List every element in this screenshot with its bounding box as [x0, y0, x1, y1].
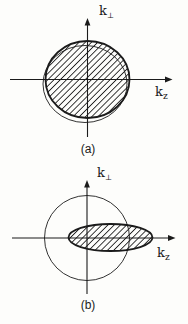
figure-a-y-axis-arrow-icon	[85, 18, 91, 26]
figure-b-y-axis-label: k⊥	[97, 166, 112, 182]
figure-b-plot	[12, 180, 176, 294]
figure-b-caption: (b)	[58, 299, 118, 311]
figure-b-x-axis-label-subscript: z	[165, 252, 170, 262]
figure-b-hatched-ellipse	[69, 224, 153, 251]
figure-a-caption: (a)	[58, 143, 118, 155]
figure-b-y-axis-label-subscript: ⊥	[105, 173, 112, 182]
figure-b-y-axis-label-base: k	[97, 165, 105, 180]
figure-a-plot	[10, 18, 173, 137]
wavevector-diagram-svg	[0, 0, 188, 324]
figure-a-y-axis-label-base: k	[99, 3, 107, 18]
figure-a-x-axis-label-base: k	[155, 84, 163, 99]
figure-a-y-axis-label: k⊥	[99, 4, 114, 20]
figure-a-x-axis-label: kz	[155, 85, 168, 101]
figure-b-x-axis-arrow-icon	[168, 235, 176, 241]
figure-a-x-axis-arrow-icon	[165, 77, 173, 83]
figure-a-hatched-sphere	[46, 41, 130, 118]
physics-figure-panel: k⊥ kz (a) k⊥ kz (b)	[0, 0, 188, 324]
figure-b-x-axis-label: kz	[157, 246, 170, 262]
figure-b-x-axis-label-base: k	[157, 245, 165, 260]
figure-a-x-axis-label-subscript: z	[163, 91, 168, 101]
figure-b-y-axis-arrow-icon	[84, 180, 90, 188]
figure-a-y-axis-label-subscript: ⊥	[107, 11, 114, 20]
